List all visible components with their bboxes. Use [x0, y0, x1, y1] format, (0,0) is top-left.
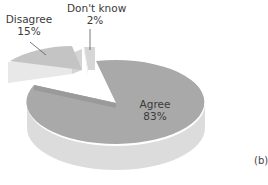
slice-disagree [8, 46, 82, 83]
label-disagree-pct: 15% [4, 25, 54, 37]
label-dontknow-pct: 2% [67, 14, 123, 26]
label-dontknow-name: Don't know [67, 2, 123, 14]
label-disagree-name: Disagree [4, 13, 54, 25]
pie-chart: Disagree 15% Don't know 2% Agree 83% (b) [0, 0, 268, 185]
label-agree-name: Agree [135, 98, 175, 110]
label-disagree: Disagree 15% [4, 13, 54, 37]
slice-dontknow [84, 47, 95, 75]
panel-label: (b) [254, 155, 268, 166]
label-dontknow: Don't know 2% [67, 2, 123, 26]
label-agree-pct: 83% [135, 110, 175, 122]
label-agree: Agree 83% [135, 98, 175, 122]
